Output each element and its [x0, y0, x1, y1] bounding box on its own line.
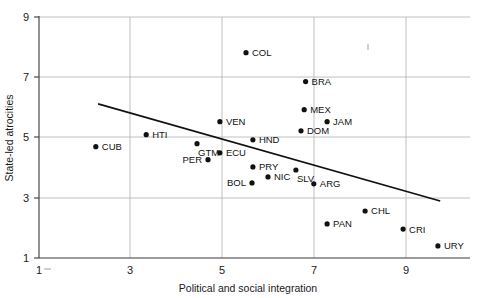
data-point-marker	[144, 132, 149, 137]
data-point-marker	[265, 174, 270, 179]
data-point-marker	[217, 150, 222, 155]
data-point-marker	[303, 79, 308, 84]
data-point: BRA	[303, 76, 332, 87]
x-tick-label-9: 9	[403, 264, 409, 276]
data-point: CRI	[401, 224, 426, 235]
x-tick-labels: 1 3 5 7 9	[36, 264, 409, 276]
data-point-marker	[325, 221, 330, 226]
data-point: BOL	[227, 177, 255, 188]
data-point: HTI	[144, 129, 168, 140]
x-axis-title: Political and social integration	[179, 282, 317, 294]
y-tick-label-7: 7	[23, 71, 29, 83]
data-point-marker	[435, 243, 440, 248]
data-point: NIC	[265, 171, 290, 182]
data-point-label: BOL	[227, 177, 246, 188]
speck-2	[44, 268, 51, 270]
data-point: SLV	[293, 167, 315, 184]
data-point: HND	[250, 134, 279, 145]
x-tick-label-5: 5	[219, 264, 225, 276]
data-point: COL	[243, 47, 271, 58]
data-point-label: URY	[444, 240, 465, 251]
data-point-marker	[205, 157, 210, 162]
data-point-label: NIC	[274, 171, 291, 182]
speck-1	[367, 44, 369, 50]
plot-area: 9 7 5 3 1 1 3 5 7 9 Political and social…	[0, 0, 477, 298]
data-point-label: HTI	[152, 129, 167, 140]
data-point-marker	[243, 50, 248, 55]
data-point-marker	[401, 227, 406, 232]
data-point: VEN	[217, 116, 245, 127]
scatter-chart: 9 7 5 3 1 1 3 5 7 9 Political and social…	[0, 0, 477, 298]
x-tick-label-3: 3	[127, 264, 133, 276]
data-point-marker	[250, 137, 255, 142]
data-point-marker	[194, 141, 199, 146]
data-point-label: COL	[252, 47, 272, 58]
data-point-label: MEX	[310, 104, 331, 115]
data-point-marker	[311, 181, 316, 186]
y-tick-label-9: 9	[23, 11, 29, 23]
data-point: URY	[435, 240, 464, 251]
data-point-marker	[250, 164, 255, 169]
y-tick-label-5: 5	[23, 131, 29, 143]
x-tick-label-1: 1	[36, 264, 42, 276]
data-point-label: PER	[182, 154, 202, 165]
data-point-marker	[293, 167, 298, 172]
data-point-marker	[298, 128, 303, 133]
data-point: ARG	[311, 178, 340, 189]
data-point-label: CUB	[102, 141, 122, 152]
data-point: MEX	[302, 104, 332, 115]
data-point-marker	[249, 180, 254, 185]
data-point-marker	[363, 208, 368, 213]
data-point-label: ECU	[226, 147, 246, 158]
data-point-marker	[93, 144, 98, 149]
data-point-label: BRA	[312, 76, 332, 87]
data-point-label: JAM	[333, 116, 352, 127]
data-point-marker	[302, 107, 307, 112]
y-tick-labels: 9 7 5 3 1	[23, 11, 29, 264]
data-point: DOM	[298, 125, 329, 136]
data-point-label: DOM	[307, 125, 329, 136]
data-point: CUB	[93, 141, 122, 152]
trend-line	[98, 104, 440, 201]
data-point-label: CHL	[371, 205, 390, 216]
y-tick-label-1: 1	[23, 252, 29, 264]
x-tick-label-7: 7	[311, 264, 317, 276]
data-point: PAN	[325, 218, 353, 229]
y-axis-title: State-led atrocities	[3, 95, 15, 182]
data-point-label: ARG	[320, 178, 341, 189]
data-point-label: PAN	[333, 218, 352, 229]
data-point: CHL	[363, 205, 391, 216]
data-point-marker	[325, 119, 330, 124]
data-point-marker	[217, 119, 222, 124]
data-point-label: VEN	[226, 116, 246, 127]
y-tick-label-3: 3	[23, 192, 29, 204]
data-point-label: CRI	[409, 224, 425, 235]
data-points-layer: COLBRAMEXJAMDOMVENHTIHNDCUBGTMECUPERPRYS…	[93, 47, 464, 251]
data-point-label: HND	[259, 134, 280, 145]
